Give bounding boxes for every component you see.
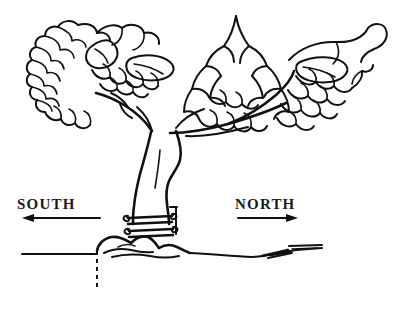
south-direction-group: SOUTH — [17, 196, 100, 222]
trunk-wrap-bands — [124, 207, 178, 237]
north-label: NORTH — [235, 196, 295, 212]
south-direction-arrow — [22, 214, 100, 222]
diagram-canvas: SOUTH NORTH — [0, 0, 408, 313]
tree-orientation-figure: SOUTH NORTH — [0, 0, 408, 313]
north-direction-group: NORTH — [235, 196, 298, 222]
south-label: SOUTH — [17, 196, 76, 212]
root-flare — [97, 236, 190, 257]
tree-canopy-foliage — [27, 16, 387, 131]
north-direction-arrow — [238, 214, 298, 222]
tree-trunk — [133, 131, 181, 224]
